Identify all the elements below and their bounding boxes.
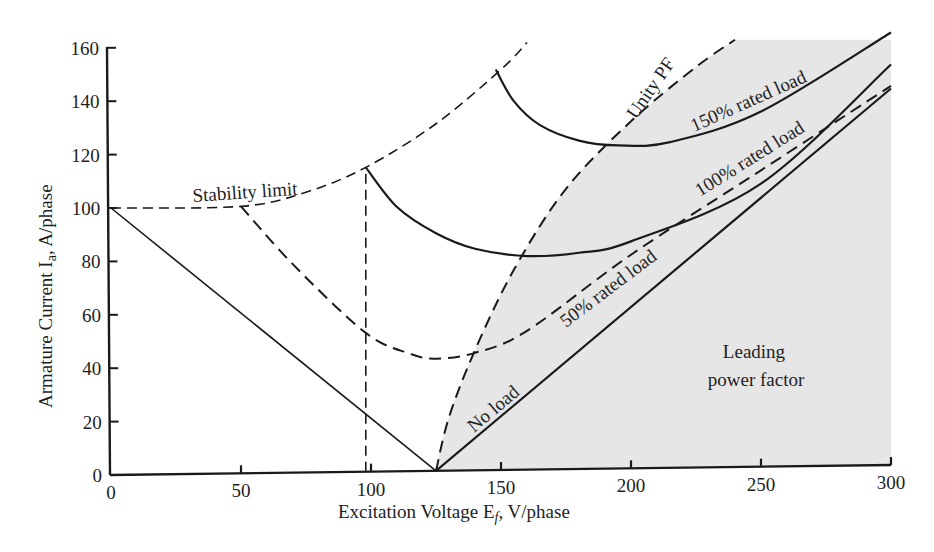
y-tick-label: 40 [82, 358, 101, 379]
x-tick-label: 0 [106, 482, 116, 503]
x-tick-label: 150 [487, 477, 516, 498]
y-tick-label: 120 [71, 145, 100, 166]
lagging-no-load-line-curve [111, 208, 436, 471]
y-tick-label: 100 [72, 198, 101, 219]
x-tick-label: 200 [617, 475, 646, 496]
x-tick-label: 50 [232, 480, 251, 501]
y-tick-label: 160 [71, 38, 100, 59]
leading-pf-label-line2: power factor [708, 369, 805, 390]
y-axis-title: Armature Current Ia, A/phase [35, 184, 59, 408]
stability-limit-label: Stability limit [192, 178, 299, 206]
y-ticks: 020406080100120140160 [71, 38, 120, 486]
v-curve-chart: 020406080100120140160 050100150200250300… [0, 0, 934, 552]
y-tick-label: 80 [82, 251, 101, 272]
y-tick-label: 140 [71, 91, 100, 112]
x-tick-label: 250 [747, 474, 776, 495]
y-tick-label: 0 [93, 465, 103, 486]
y-tick-label: 20 [83, 412, 102, 433]
stability-limit-curve [111, 42, 527, 208]
x-axis-title: Excitation Voltage Ef, V/phase [338, 501, 570, 525]
y-tick-label: 60 [82, 305, 101, 326]
x-tick-label: 100 [357, 479, 386, 500]
leading-pf-label-line1: Leading [723, 341, 786, 362]
x-tick-label: 300 [877, 472, 906, 493]
